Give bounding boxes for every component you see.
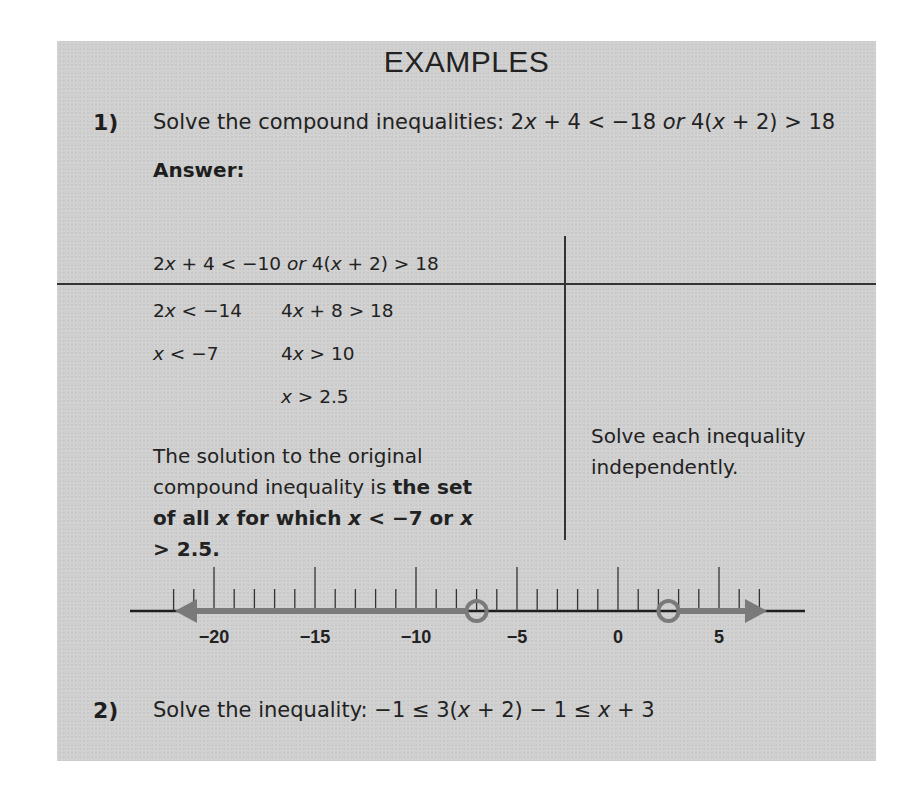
variable-x: x (460, 506, 473, 530)
svg-text:−5: −5 (507, 627, 528, 647)
solution-text: The solution to the original compound in… (153, 444, 422, 499)
variable-x: x (331, 253, 342, 274)
or-keyword: or (663, 110, 684, 134)
svg-text:5: 5 (714, 627, 724, 647)
example-2-prompt: Solve the inequality: −1 ≤ 3(x + 2) − 1 … (153, 698, 655, 722)
variable-x: x (524, 110, 536, 134)
variable-x: x (458, 698, 470, 722)
step-left-1: 2x < −14 (153, 300, 242, 321)
math: 2 (153, 253, 165, 274)
step-right-2: 4x > 10 (281, 343, 355, 364)
or-keyword: or (287, 253, 306, 274)
svg-text:−20: −20 (199, 627, 230, 647)
math: + 4 < −18 (537, 110, 663, 134)
variable-x: x (165, 253, 176, 274)
math: 4( (306, 253, 331, 274)
example-1-prompt: Solve the compound inequalities: 2x + 4 … (153, 110, 835, 134)
solution-bold: for which (229, 506, 348, 530)
example-2-number: 2) (93, 698, 118, 723)
math: 4( (684, 110, 712, 134)
math: + 2) > 18 (725, 110, 835, 134)
number-line: −20−15−10−505 (57, 541, 876, 651)
variable-x: x (281, 386, 292, 407)
svg-text:0: 0 (613, 627, 623, 647)
math: 2 (511, 110, 524, 134)
step-left-2: x < −7 (153, 343, 219, 364)
svg-text:−10: −10 (401, 627, 432, 647)
variable-x: x (713, 110, 725, 134)
math: < −14 (176, 300, 242, 321)
variable-x: x (598, 698, 610, 722)
variable-x: x (217, 506, 230, 530)
variable-x: x (153, 343, 164, 364)
math: 4 (281, 343, 293, 364)
step-right-3: x > 2.5 (281, 386, 349, 407)
examples-panel: EXAMPLES 1) Solve the compound inequalit… (57, 41, 876, 761)
variable-x: x (293, 300, 304, 321)
variable-x: x (293, 343, 304, 364)
math: > 10 (304, 343, 355, 364)
restated-inequality: 2x + 4 < −10 or 4(x + 2) > 18 (153, 253, 439, 274)
math: 2 (153, 300, 165, 321)
svg-text:−15: −15 (300, 627, 331, 647)
math: + 3 (610, 698, 654, 722)
step-note: Solve each inequality independently. (591, 421, 831, 483)
table-divider-vertical (564, 236, 566, 540)
variable-x: x (165, 300, 176, 321)
math: < −7 (164, 343, 219, 364)
table-divider-horizontal (57, 283, 876, 285)
step-right-1: 4x + 8 > 18 (281, 300, 394, 321)
answer-label: Answer: (153, 158, 245, 182)
prompt-text: Solve the compound inequalities: (153, 110, 511, 134)
math: + 2) − 1 ≤ (470, 698, 598, 722)
section-heading: EXAMPLES (57, 45, 876, 79)
math: + 8 > 18 (304, 300, 394, 321)
math: 4 (281, 300, 293, 321)
variable-x: x (348, 506, 361, 530)
solution-bold: < −7 or (361, 506, 460, 530)
math: + 4 < −10 (176, 253, 287, 274)
math: + 2) > 18 (342, 253, 439, 274)
example-1-number: 1) (93, 110, 118, 135)
number-line-graphic: −20−15−10−505 (130, 567, 805, 647)
prompt-text: Solve the inequality: (153, 698, 374, 722)
math: −1 ≤ 3( (374, 698, 457, 722)
math: > 2.5 (292, 386, 349, 407)
